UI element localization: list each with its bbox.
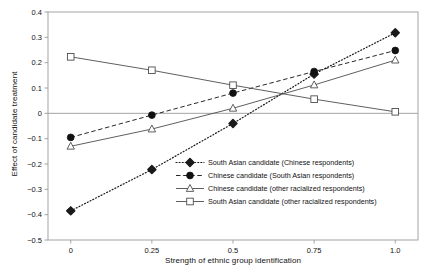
legend-item-label: South Asian candidate (Chinese responden… [205, 159, 354, 166]
y-tick-label: 0.3 [18, 33, 42, 42]
legend-item: South Asian candidate (other racialized … [175, 195, 377, 208]
y-tick-label: −0.1 [18, 134, 42, 143]
series-2 [67, 56, 399, 149]
legend-key-square-solid-icon [175, 195, 205, 208]
axis-ticks [45, 12, 396, 244]
legend-item-label: South Asian candidate (other racialized … [205, 198, 377, 205]
legend-item-label: Chinese candidate (South Asian responden… [205, 172, 354, 179]
y-tick-label: −0.3 [18, 185, 42, 194]
y-tick-label: 0.2 [18, 58, 42, 67]
chart-legend: South Asian candidate (Chinese responden… [175, 156, 377, 208]
x-tick-label: 0.25 [137, 246, 167, 255]
legend-item: Chinese candidate (other racialized resp… [175, 182, 377, 195]
legend-item: Chinese candidate (South Asian responden… [175, 169, 377, 182]
y-tick-label: 0.1 [18, 84, 42, 93]
y-tick-label: −0.4 [18, 210, 42, 219]
legend-item: South Asian candidate (Chinese responden… [175, 156, 377, 169]
chart-figure: Effect of candidate treatment Strength o… [0, 0, 427, 275]
y-tick-label: −0.5 [18, 236, 42, 245]
x-tick-label: 0.5 [218, 246, 248, 255]
y-tick-label: −0.2 [18, 160, 42, 169]
y-tick-label: 0 [18, 109, 42, 118]
x-tick-label: 1.0 [380, 246, 410, 255]
plot-area [0, 0, 427, 275]
legend-item-label: Chinese candidate (other racialized resp… [205, 185, 365, 192]
x-tick-label: 0 [56, 246, 86, 255]
x-tick-label: 0.75 [299, 246, 329, 255]
y-tick-label: 0.4 [18, 8, 42, 17]
legend-key-diamond-dotted-icon [175, 156, 205, 169]
legend-key-circle-dashed-icon [175, 169, 205, 182]
legend-key-triangle-solid-icon [175, 182, 205, 195]
